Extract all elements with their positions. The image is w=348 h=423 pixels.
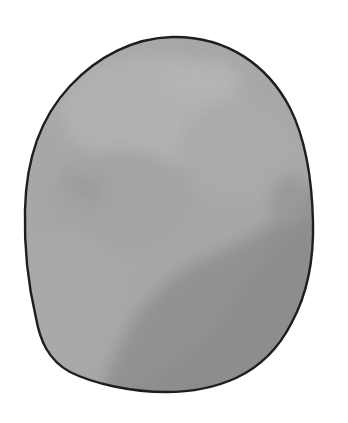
stone-body	[0, 0, 348, 423]
stone-illustration	[0, 0, 348, 423]
stone-icon	[0, 0, 348, 423]
